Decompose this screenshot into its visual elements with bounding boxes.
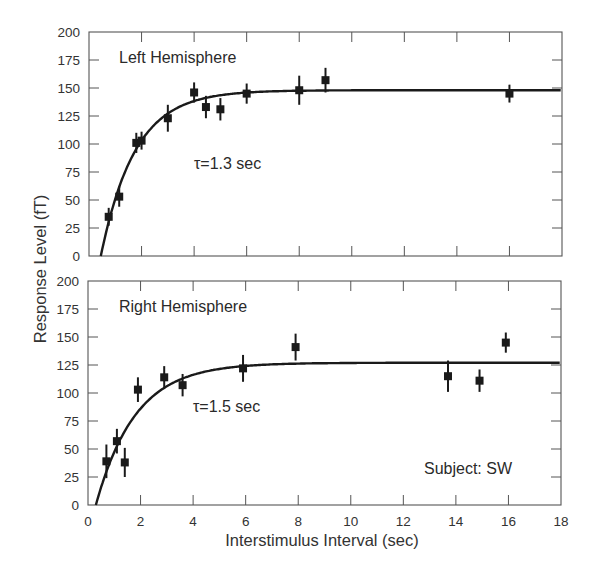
y-tick-label: 0: [71, 498, 79, 513]
subject-label: Subject: SW: [424, 460, 513, 477]
data-point: [502, 339, 510, 347]
x-tick-label: 6: [242, 514, 250, 529]
y-tick-label: 100: [57, 137, 80, 152]
y-tick-label: 50: [65, 193, 80, 208]
data-point: [121, 458, 129, 466]
x-tick-label: 12: [396, 514, 411, 529]
x-tick-label: 16: [501, 514, 516, 529]
x-tick-label: 10: [343, 514, 358, 529]
y-axis-title: Response Level (fT): [31, 195, 49, 344]
response-level-chart: 0255075100125150175200 02550751001251501…: [0, 0, 592, 574]
x-tick-label: 8: [294, 514, 302, 529]
data-point: [190, 88, 198, 96]
y-tick-label: 125: [56, 358, 79, 373]
data-point: [113, 437, 121, 445]
data-point: [138, 137, 146, 145]
data-point: [102, 457, 110, 465]
y-tick-label: 100: [56, 386, 79, 401]
x-tick-label: 2: [137, 514, 145, 529]
y-tick-label: 150: [57, 81, 80, 96]
data-point: [243, 90, 251, 98]
data-point: [505, 90, 513, 98]
x-axis-title: Interstimulus Interval (sec): [225, 531, 418, 549]
data-point: [239, 364, 247, 372]
y-tick-label: 25: [64, 470, 79, 485]
data-point: [476, 377, 484, 385]
data-point: [444, 372, 452, 380]
y-tick-label: 75: [65, 165, 80, 180]
y-tick-label: 125: [57, 109, 80, 124]
top-panel-tau: τ=1.3 sec: [194, 155, 261, 172]
y-tick-label: 200: [56, 274, 79, 289]
data-point: [179, 381, 187, 389]
data-point: [105, 213, 113, 221]
x-tick-label: 4: [189, 514, 197, 529]
y-tick-label: 75: [64, 414, 79, 429]
y-tick-label: 150: [56, 330, 79, 345]
x-tick-label: 18: [553, 514, 568, 529]
data-point: [216, 105, 224, 113]
top-panel-title: Left Hemisphere: [119, 49, 236, 66]
data-point: [115, 193, 123, 201]
data-point: [292, 343, 300, 351]
y-tick-label: 175: [56, 302, 79, 317]
data-point: [322, 76, 330, 84]
y-tick-label: 175: [57, 53, 80, 68]
data-point: [164, 114, 172, 122]
x-tick-label: 0: [84, 514, 92, 529]
bottom-panel-title: Right Hemisphere: [119, 298, 247, 315]
data-point: [295, 86, 303, 94]
data-point: [160, 373, 168, 381]
y-tick-label: 0: [72, 249, 80, 264]
data-point: [134, 386, 142, 394]
y-tick-label: 50: [64, 442, 79, 457]
y-tick-label: 25: [65, 221, 80, 236]
fit-curve: [96, 363, 560, 505]
y-tick-label: 200: [57, 25, 80, 40]
x-tick-label: 14: [448, 514, 464, 529]
bottom-panel-tau: τ=1.5 sec: [193, 398, 260, 415]
data-point: [202, 103, 210, 111]
